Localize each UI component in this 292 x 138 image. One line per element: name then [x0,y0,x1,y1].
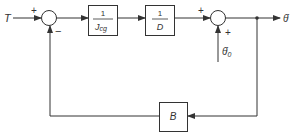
disturbance-label: θ̇0 [222,46,231,58]
feedback-block-label: B [170,111,177,122]
feedback-arrow-to-b [188,18,257,116]
summing-junction-1 [42,11,57,26]
output-label: θ̇ [283,13,289,24]
sj2-plus-sign-left: + [198,5,204,16]
input-label: T [4,12,12,24]
block-2-denominator: D [157,22,164,32]
sj1-minus-sign: − [55,25,61,37]
summing-junction-2 [211,11,226,26]
block-1-numerator: 1 [101,9,106,18]
block-diagram: T + − 1 Jcg 1 D + + θ̇0 θ̇ B [0,0,292,138]
sj1-plus-sign: + [31,5,37,16]
feedback-arrow-to-sj1 [50,26,160,116]
sj2-plus-sign-bottom: + [225,27,231,38]
block-2-numerator: 1 [158,9,163,18]
